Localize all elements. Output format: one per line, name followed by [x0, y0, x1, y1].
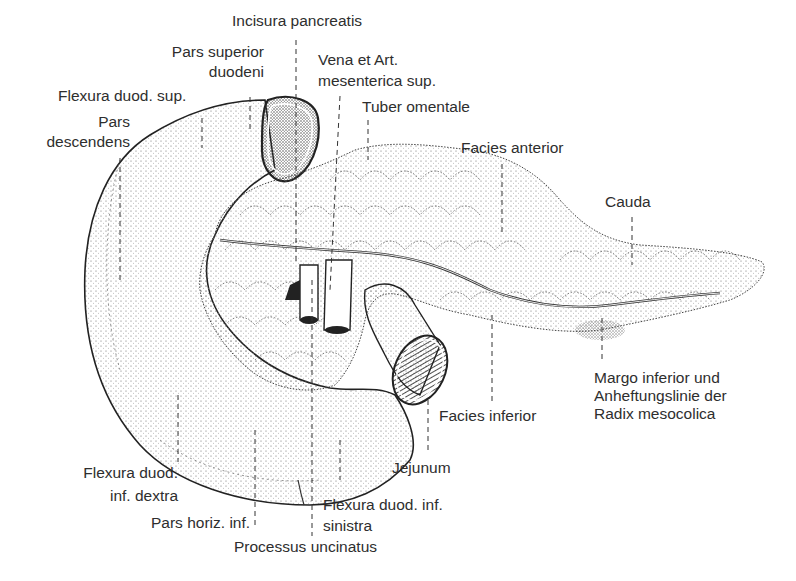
label-vena-art-2: mesenterica sup.: [318, 72, 436, 90]
label-processus-uncinatus: Processus uncinatus: [234, 538, 377, 556]
label-tuber-omentale: Tuber omentale: [362, 98, 470, 116]
label-margo-inferior-1: Margo inferior und: [594, 369, 720, 387]
label-flexura-inf-dextra-1: Flexura duod.: [50, 464, 178, 482]
label-facies-inferior: Facies inferior: [439, 407, 536, 425]
label-jejunum: Jejunum: [392, 459, 451, 477]
label-vena-art-1: Vena et Art.: [318, 51, 398, 69]
label-pars-superior-2: duodeni: [152, 63, 264, 81]
label-flexura-sup: Flexura duod. sup.: [58, 87, 186, 105]
label-flexura-inf-sinistra-1: Flexura duod. inf.: [323, 496, 443, 514]
duodenum-superior-opening: [262, 97, 319, 181]
label-pars-descendens-2: descendens: [40, 133, 130, 151]
label-flexura-inf-dextra-2: inf. dextra: [50, 487, 178, 505]
label-pars-descendens-1: Pars: [40, 113, 130, 131]
label-cauda: Cauda: [605, 193, 651, 211]
label-facies-anterior: Facies anterior: [461, 139, 564, 157]
label-incisura-pancreatis: Incisura pancreatis: [232, 12, 362, 30]
label-pars-horiz-inf: Pars horiz. inf.: [151, 514, 250, 532]
label-pars-superior-1: Pars superior: [152, 43, 264, 61]
label-margo-inferior-2: Anheftungslinie der: [594, 387, 727, 405]
pancreas: [200, 144, 765, 390]
anatomy-figure: Incisura pancreatis Pars superior duoden…: [0, 0, 796, 581]
label-margo-inferior-3: Radix mesocolica: [594, 405, 715, 423]
label-flexura-inf-sinistra-2: sinistra: [323, 517, 372, 535]
